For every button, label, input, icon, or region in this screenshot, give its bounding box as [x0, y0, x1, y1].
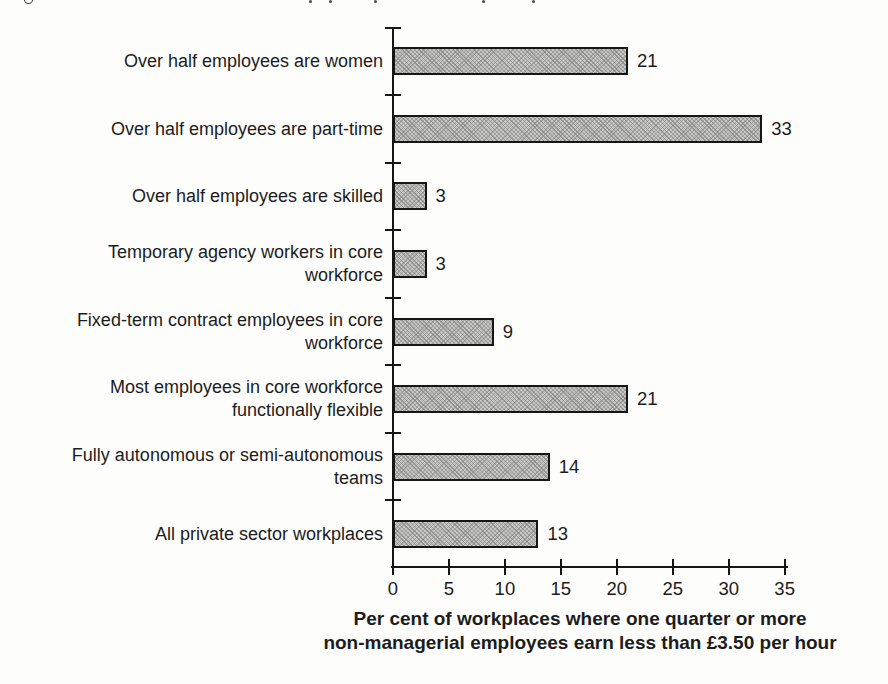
- scanned-book-page: Per cent of workplaces where one quarter…: [0, 0, 888, 684]
- x-axis-tick: [616, 559, 618, 575]
- category-label: All private sector workplaces: [43, 523, 383, 546]
- x-axis-tick: [448, 559, 450, 575]
- value-label: 13: [547, 523, 568, 545]
- bar: [393, 520, 538, 548]
- x-tick-label: 15: [539, 578, 583, 600]
- value-label: 14: [559, 456, 580, 478]
- bar: [393, 47, 628, 75]
- bar: [393, 453, 550, 481]
- category-label: Temporary agency workers in core workfor…: [43, 241, 383, 287]
- category-label: Fully autonomous or semi-autonomous team…: [43, 444, 383, 490]
- bar: [393, 385, 628, 413]
- category-label: Over half employees are women: [43, 50, 383, 73]
- x-axis-title: Per cent of workplaces where one quarter…: [280, 607, 880, 655]
- value-label: 33: [771, 118, 792, 140]
- x-axis-tick: [392, 559, 394, 575]
- bar: [393, 182, 427, 210]
- value-label: 21: [637, 388, 658, 410]
- category-label: Over half employees are part-time: [43, 117, 383, 140]
- x-tick-label: 0: [371, 578, 415, 600]
- x-tick-label: 5: [427, 578, 471, 600]
- x-axis-tick: [672, 559, 674, 575]
- y-axis-tick: [385, 94, 401, 96]
- x-axis-tick: [784, 559, 786, 575]
- y-axis-tick: [385, 27, 401, 29]
- category-label: Over half employees are skilled: [43, 185, 383, 208]
- category-label: Fixed-term contract employees in core wo…: [43, 309, 383, 355]
- y-axis-tick: [385, 364, 401, 366]
- value-label: 3: [436, 253, 446, 275]
- bar-chart: Per cent of workplaces where one quarter…: [0, 0, 888, 684]
- x-tick-label: 10: [483, 578, 527, 600]
- x-axis-tick: [560, 559, 562, 575]
- y-axis-tick: [385, 432, 401, 434]
- bar: [393, 250, 427, 278]
- x-tick-label: 30: [707, 578, 751, 600]
- y-axis-tick: [385, 229, 401, 231]
- y-axis-tick: [385, 162, 401, 164]
- category-label: Most employees in core workforce functio…: [43, 376, 383, 422]
- x-axis-tick: [504, 559, 506, 575]
- x-tick-label: 35: [763, 578, 807, 600]
- x-tick-label: 25: [651, 578, 695, 600]
- bar: [393, 115, 762, 143]
- x-axis-tick: [728, 559, 730, 575]
- value-label: 21: [637, 50, 658, 72]
- value-label: 9: [503, 321, 513, 343]
- x-tick-label: 20: [595, 578, 639, 600]
- y-axis-tick: [385, 499, 401, 501]
- y-axis-tick: [385, 297, 401, 299]
- bar: [393, 318, 494, 346]
- value-label: 3: [436, 185, 446, 207]
